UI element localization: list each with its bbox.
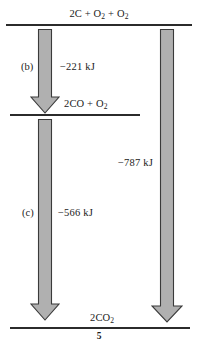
enthalpy-value-step-b: −221 kJ: [60, 62, 95, 73]
enthalpy-diagram-figure: 2C + O2 + O2 2CO + O2 2CO2 (b) (c) −221 …: [0, 0, 198, 349]
enthalpy-value-overall: −787 kJ: [118, 158, 153, 169]
reaction-arrow-step-c: [30, 119, 60, 321]
enthalpy-value-step-c: −566 kJ: [58, 208, 93, 219]
page-number: 5: [0, 332, 198, 342]
energy-level-line-reactants: [6, 24, 192, 26]
step-identifier-c: (c): [22, 208, 34, 219]
species-label-products: 2CO2: [90, 313, 114, 324]
energy-level-line-intermediate: [10, 114, 140, 116]
reaction-arrow-overall: [151, 29, 183, 323]
reaction-arrow-step-b: [30, 29, 60, 114]
step-identifier-b: (b): [21, 62, 33, 73]
energy-level-line-products: [10, 327, 190, 329]
species-label-intermediate: 2CO + O2: [64, 99, 108, 110]
species-label-reactants: 2C + O2 + O2: [0, 9, 198, 20]
